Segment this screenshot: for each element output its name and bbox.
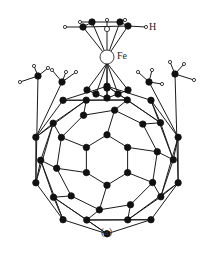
hydrogen-atom (18, 80, 21, 83)
carbon-atom (104, 132, 110, 138)
hydrogen-atom (50, 68, 53, 71)
carbon-atom (111, 107, 117, 113)
methyl-carbon-atom (146, 79, 152, 85)
hydrogen-atom (144, 25, 147, 28)
cp-carbon-atom (89, 19, 95, 25)
carbon-atom (148, 217, 154, 223)
hydrogen-label: H (149, 21, 156, 32)
carbon-atom (83, 169, 89, 175)
carbon-atom (140, 121, 146, 127)
carbon-atom (115, 91, 121, 97)
hydrogen-atom (136, 70, 139, 73)
carbon-atom (83, 144, 89, 150)
hydrogen-atom (150, 68, 153, 71)
hydrogen-atom (78, 20, 81, 23)
carbon-atom (80, 112, 86, 118)
carbon-atom (175, 180, 181, 186)
hydrogen-atom (168, 60, 171, 63)
carbon-atom (158, 194, 164, 200)
carbon-atom (83, 97, 89, 103)
carbon-atom (38, 157, 44, 163)
carbon-atom (124, 144, 130, 150)
hydrogen-atom (192, 78, 195, 81)
carbon-atom (124, 169, 130, 175)
cp-carbon-atom (125, 23, 131, 29)
hydrogen-atom (64, 70, 67, 73)
carbon-atom (68, 193, 74, 199)
carbon-atom (127, 202, 133, 208)
hydrogen-atom (160, 82, 163, 85)
carbon-atom (84, 87, 90, 93)
carbon-atom (96, 207, 102, 213)
carbon-atom (149, 179, 155, 185)
carbon-atom (104, 182, 110, 188)
carbon-atom (125, 217, 131, 223)
carbon-atom (104, 85, 110, 91)
iron-label: Fe (117, 50, 128, 61)
carbon-atom (33, 180, 39, 186)
hydrogen-atom (32, 64, 35, 67)
methyl-carbon-atom (35, 73, 41, 79)
atoms (18, 18, 195, 237)
carbon-atom (84, 217, 90, 223)
carbon-atom (50, 120, 56, 126)
hydrogen-atom (105, 18, 108, 21)
carbon-atom (53, 165, 59, 171)
carbon-atom (157, 120, 163, 126)
carbon-atom (60, 217, 66, 223)
carbon-atom (170, 157, 176, 163)
carbon-atom (124, 97, 130, 103)
hydrogen-atom (46, 66, 49, 69)
carbon-atom (175, 134, 181, 140)
carbon-atom (125, 87, 131, 93)
hydrogen-atom (182, 62, 185, 65)
carbon-atom (148, 97, 154, 103)
molecule-diagram: H Fe (0, 0, 213, 259)
carbon-atom (58, 134, 64, 140)
methyl-carbon-atom (59, 79, 65, 85)
figure-caption: (a) (0, 226, 213, 237)
carbon-atom (50, 194, 56, 200)
methyl-carbon-atom (172, 71, 178, 77)
hydrogen-atom (63, 25, 66, 28)
iron-atom (100, 50, 114, 64)
cp-carbon-atom (117, 19, 123, 25)
hydrogen-atom (123, 18, 126, 21)
cp-carbon-atom (80, 24, 86, 30)
carbon-atom (104, 95, 110, 101)
carbon-atom (33, 134, 39, 140)
carbon-atom (154, 149, 160, 155)
carbon-atom (93, 91, 99, 97)
cp-carbon-atom (104, 26, 109, 31)
hydrogen-atom (74, 70, 77, 73)
carbon-atom (60, 97, 66, 103)
